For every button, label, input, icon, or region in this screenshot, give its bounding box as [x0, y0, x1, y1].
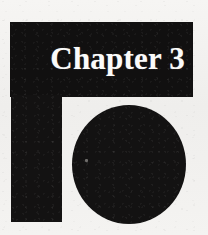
chapter-opener-page: Chapter 3 — [0, 0, 208, 235]
solid-circle — [72, 105, 186, 224]
vertical-rule-stem — [11, 95, 62, 222]
page-title: Chapter 3 — [10, 40, 185, 78]
scan-speck — [85, 159, 88, 162]
